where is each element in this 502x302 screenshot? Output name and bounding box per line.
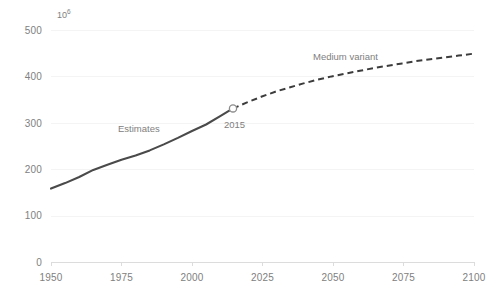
y-tick-label-500: 500 (8, 25, 42, 36)
annotation-estimates: Estimates (118, 123, 160, 134)
x-tick-label-2050: 2050 (313, 272, 353, 283)
x-axis-ticks (51, 262, 474, 266)
x-tick-label-2025: 2025 (243, 272, 283, 283)
y-tick-label-100: 100 (8, 210, 42, 221)
marker-2015-point (229, 105, 236, 112)
population-projection-chart: 106 500 400 300 200 100 0 1950 1975 2000… (0, 0, 502, 302)
marker-2015-label: 2015 (224, 119, 245, 130)
chart-plot-svg (0, 0, 502, 302)
unit-base: 10 (57, 10, 67, 20)
y-tick-label-300: 300 (8, 118, 42, 129)
series-estimates-line (51, 108, 233, 188)
y-axis-unit-label: 106 (57, 10, 71, 20)
x-tick-label-2100: 2100 (454, 272, 494, 283)
x-tick-label-2000: 2000 (172, 272, 212, 283)
gridlines (51, 31, 474, 217)
y-tick-label-0: 0 (8, 257, 42, 268)
annotation-medium-variant: Medium variant (313, 51, 378, 62)
y-tick-label-200: 200 (8, 164, 42, 175)
x-tick-label-2075: 2075 (384, 272, 424, 283)
x-tick-label-1975: 1975 (102, 272, 142, 283)
unit-exponent: 6 (67, 8, 71, 15)
x-tick-label-1950: 1950 (31, 272, 71, 283)
y-tick-label-400: 400 (8, 71, 42, 82)
